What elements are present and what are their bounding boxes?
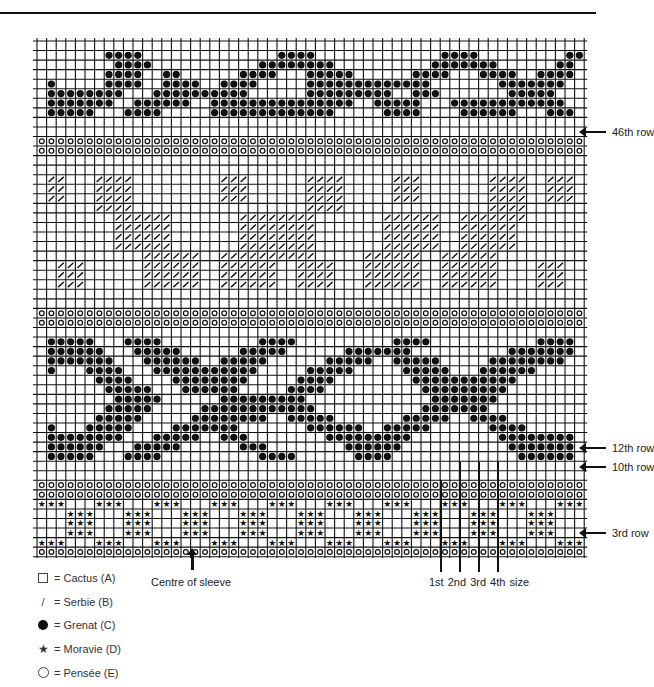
grenat-dot: [48, 434, 55, 441]
pensee-circle: [366, 492, 371, 497]
grenat-dot: [528, 357, 535, 364]
grenat-dot: [48, 338, 55, 345]
grenat-dot: [221, 386, 228, 393]
pensee-circle: [558, 320, 563, 325]
serbie-slash: [164, 234, 170, 239]
grenat-dot: [422, 376, 429, 383]
serbie-slash: [519, 196, 525, 201]
pensee-circle: [443, 483, 448, 488]
grenat-dot: [115, 71, 122, 78]
grenat-dot: [96, 443, 103, 450]
moravie-star: ★: [297, 509, 305, 519]
serbie-slash: [548, 282, 554, 287]
serbie-slash: [269, 225, 275, 230]
pensee-circle: [529, 483, 534, 488]
pensee-circle: [107, 148, 112, 153]
pensee-circle: [471, 311, 476, 316]
moravie-star: ★: [124, 518, 132, 528]
moravie-star: ★: [86, 528, 94, 538]
grenat-dot: [221, 405, 228, 412]
grenat-dot: [345, 357, 352, 364]
pensee-circle: [251, 483, 256, 488]
moravie-star: ★: [67, 528, 75, 538]
row-label-46: 46th row: [584, 126, 654, 138]
grenat-dot: [509, 357, 516, 364]
grenat-dot: [173, 348, 180, 355]
pensee-circle: [577, 139, 582, 144]
grenat-dot: [57, 348, 64, 355]
grenat-dot: [547, 338, 554, 345]
pensee-circle: [462, 550, 467, 555]
pensee-circle: [212, 492, 217, 497]
pensee-circle: [327, 483, 332, 488]
moravie-star: ★: [460, 499, 468, 509]
serbie-slash: [154, 282, 160, 287]
pensee-circle: [145, 320, 150, 325]
serbie-slash: [413, 272, 419, 277]
serbie-slash: [433, 225, 439, 230]
serbie-slash: [490, 282, 496, 287]
grenat-dot: [48, 90, 55, 97]
grenat-dot: [355, 90, 362, 97]
grenat-dot: [192, 376, 199, 383]
grenat-dot: [240, 109, 247, 116]
pensee-circle: [414, 148, 419, 153]
grenat-dot: [480, 415, 487, 422]
grenat-dot: [259, 357, 266, 364]
pensee-circle: [308, 483, 313, 488]
grenat-dot: [240, 396, 247, 403]
grenat-dot: [125, 396, 132, 403]
pensee-circle: [539, 492, 544, 497]
pensee-circle: [462, 311, 467, 316]
size-line-1st: [440, 480, 442, 572]
moravie-star: ★: [326, 499, 334, 509]
grenat-dot: [211, 367, 218, 374]
serbie-slash: [327, 186, 333, 191]
grenat-dot: [221, 415, 228, 422]
serbie-slash: [404, 234, 410, 239]
pensee-circle: [212, 311, 217, 316]
pensee-circle: [385, 483, 390, 488]
serbie-slash: [260, 215, 266, 220]
grenat-dot: [269, 71, 276, 78]
grenat-dot: [134, 109, 141, 116]
serbie-slash: [279, 225, 285, 230]
grenat-dot: [461, 52, 468, 59]
grenat-dot: [374, 90, 381, 97]
grenat-dot: [480, 61, 487, 68]
pensee-circle: [260, 550, 265, 555]
pensee-circle: [471, 492, 476, 497]
pensee-circle: [107, 550, 112, 555]
pensee-circle: [491, 148, 496, 153]
moravie-star: ★: [489, 518, 497, 528]
grenat-dot: [144, 443, 151, 450]
pensee-circle: [452, 320, 457, 325]
grenat-dot: [105, 415, 112, 422]
serbie-slash: [337, 177, 343, 182]
moravie-star: ★: [345, 538, 353, 548]
pensee-circle: [126, 483, 131, 488]
grenat-dot: [317, 386, 324, 393]
serbie-slash: [490, 177, 496, 182]
moravie-star: ★: [57, 538, 65, 548]
moravie-star: ★: [259, 528, 267, 538]
moravie-star: ★: [316, 509, 324, 519]
serbie-slash: [471, 272, 477, 277]
serbie-slash: [500, 177, 506, 182]
pensee-circle: [395, 483, 400, 488]
serbie-slash: [269, 272, 275, 277]
grenat-dot: [249, 109, 256, 116]
grenat-dot: [230, 99, 237, 106]
serbie-slash: [471, 253, 477, 258]
grenat-dot: [509, 99, 516, 106]
pensee-circle: [308, 320, 313, 325]
moravie-star: ★: [460, 538, 468, 548]
pensee-circle: [279, 148, 284, 153]
grenat-dot: [163, 357, 170, 364]
pensee-circle: [356, 148, 361, 153]
serbie-slash: [125, 234, 131, 239]
moravie-star: ★: [67, 509, 75, 519]
grenat-dot: [384, 90, 391, 97]
grenat-dot: [288, 99, 295, 106]
pensee-circle: [347, 311, 352, 316]
